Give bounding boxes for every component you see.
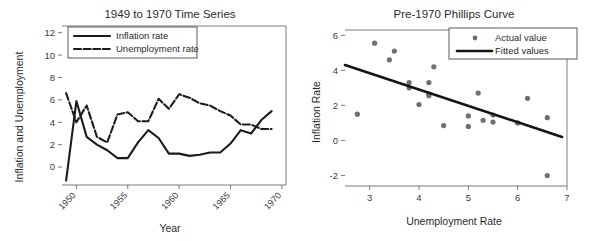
scatter-point (466, 113, 471, 118)
x-tick-label: 4 (416, 192, 421, 203)
y-tick-label: 4 (50, 117, 55, 128)
phillips-curve-title: Pre-1970 Phillips Curve (394, 8, 515, 20)
phillips-curve-x-ticks: 34567 (367, 186, 570, 203)
phillips-curve-figure: 1949 to 1970 Time Series Inflation and U… (0, 0, 598, 241)
y-tick-label: 0 (50, 161, 55, 172)
x-tick-label: 1965 (211, 190, 232, 211)
scatter-point (481, 118, 486, 123)
x-tick-label: 1960 (159, 190, 180, 211)
time-series-y-ticks: 024681012 (44, 27, 62, 172)
x-tick-label: 1955 (108, 190, 129, 211)
y-tick-label: 4 (333, 65, 338, 76)
scatter-point (441, 123, 446, 128)
time-series-title: 1949 to 1970 Time Series (104, 8, 235, 20)
scatter-point (372, 41, 377, 46)
phillips-curve-chart-panel: Pre-1970 Phillips Curve Inflation Rate U… (299, 0, 598, 241)
inflation-rate-line (66, 101, 271, 181)
x-tick-label: 5 (466, 192, 471, 203)
y-tick-label: 10 (44, 50, 55, 61)
phillips-curve-y-axis-label: Inflation Rate (310, 81, 322, 143)
y-tick-label: 2 (50, 139, 55, 150)
x-tick-label: 1970 (262, 190, 283, 211)
scatter-point (490, 119, 495, 124)
scatter-point (355, 112, 360, 117)
scatter-point (426, 80, 431, 85)
legend-label-fitted-values: Fitted values (495, 45, 549, 56)
scatter-point (392, 48, 397, 53)
time-series-x-ticks: 19501955196019651970 (57, 185, 284, 212)
scatter-point (525, 96, 530, 101)
x-tick-label: 1950 (57, 190, 78, 211)
y-tick-label: 8 (50, 72, 55, 83)
time-series-x-axis-label: Year (159, 222, 181, 234)
scatter-point (416, 102, 421, 107)
time-series-chart: 1949 to 1970 Time Series Inflation and U… (0, 0, 299, 241)
phillips-curve-y-ticks: -20246 (330, 30, 345, 181)
unemployment-rate-line (66, 93, 271, 142)
scatter-point (466, 124, 471, 129)
y-tick-label: 6 (50, 94, 55, 105)
y-tick-label: 0 (333, 135, 338, 146)
scatter-point (431, 64, 436, 69)
phillips-curve-chart: Pre-1970 Phillips Curve Inflation Rate U… (299, 0, 598, 241)
x-tick-label: 7 (564, 192, 569, 203)
time-series-chart-panel: 1949 to 1970 Time Series Inflation and U… (0, 0, 299, 241)
scatter-point (476, 91, 481, 96)
x-tick-label: 6 (515, 192, 520, 203)
phillips-curve-fitted-line (345, 65, 562, 137)
phillips-curve-scatter-points (355, 41, 550, 179)
legend-label-actual-value: Actual value (495, 32, 547, 43)
time-series-y-axis-label: Inflation and Unemployment (13, 52, 25, 183)
y-tick-label: 6 (333, 30, 338, 41)
y-tick-label: -2 (330, 170, 338, 181)
legend-label-unemployment: Unemployment rate (116, 43, 199, 54)
phillips-curve-legend[interactable]: Actual value Fitted values (449, 28, 577, 59)
phillips-curve-x-axis-label: Unemployment Rate (406, 215, 502, 227)
scatter-point (545, 115, 550, 120)
y-tick-label: 2 (333, 100, 338, 111)
x-tick-label: 3 (367, 192, 372, 203)
legend-label-inflation: Inflation rate (116, 30, 168, 41)
scatter-point (387, 57, 392, 62)
y-tick-label: 12 (44, 27, 55, 38)
scatter-point (545, 173, 550, 178)
time-series-legend[interactable]: Inflation rate Unemployment rate (68, 27, 199, 58)
legend-swatch-actual-value-dot (473, 36, 478, 41)
